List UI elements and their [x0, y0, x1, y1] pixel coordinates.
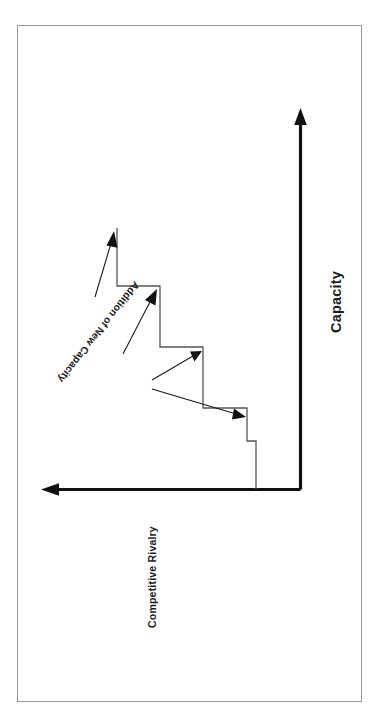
- axes-group: [41, 108, 307, 496]
- capacity-rivalry-figure: Capacity Competitive Rivalry Addition of…: [0, 0, 380, 721]
- pointer-line-1: [95, 240, 112, 297]
- diagram-page: Capacity Competitive Rivalry Addition of…: [0, 0, 380, 721]
- axis-label-competitive-rivalry: Competitive Rivalry: [146, 526, 158, 628]
- axis-label-capacity: Capacity: [328, 271, 344, 333]
- arrow-left-icon: [41, 483, 59, 496]
- pointer-line-3: [152, 356, 193, 380]
- pointer-arrow-4: [152, 389, 246, 420]
- capacity-axis: [294, 108, 307, 490]
- pointer-head-1: [107, 231, 118, 248]
- staircase-path: [117, 228, 256, 489]
- pointer-arrow-1: [95, 231, 118, 297]
- rivalry-axis: [41, 483, 301, 496]
- arrow-up-icon: [294, 108, 307, 125]
- capacity-staircase: [117, 228, 256, 489]
- pointer-head-4: [232, 409, 246, 420]
- pointer-arrow-3: [152, 351, 202, 380]
- pointer-head-2: [145, 289, 157, 306]
- pointer-line-4: [152, 389, 236, 414]
- annotation-label-addition-of-new-capacity: Addition of New Capacity: [56, 279, 142, 385]
- pointer-line-2: [123, 298, 152, 354]
